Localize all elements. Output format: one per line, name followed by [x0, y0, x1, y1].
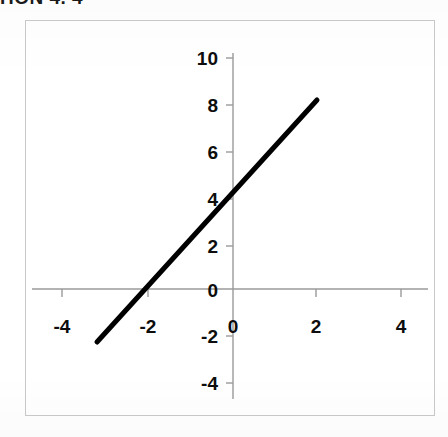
cropped-title-fragment: HON 4. 4	[0, 0, 160, 9]
x-tick-label-2: 2	[294, 317, 338, 336]
y-tick-label-10: 10	[174, 49, 218, 68]
x-tick-label-minus-2: -2	[126, 317, 170, 336]
x-axis-ticks	[62, 289, 401, 297]
x-tick-label-0: 0	[211, 317, 255, 336]
y-tick-label-8: 8	[174, 96, 218, 115]
chart-plot-frame: 10 8 6 4 2 0 -2 -4 -4 -2 0 2 4	[25, 20, 435, 416]
y-tick-label-0: 0	[174, 281, 218, 300]
line-chart-svg	[26, 21, 436, 417]
y-tick-label-minus-4: -4	[170, 374, 218, 393]
y-tick-label-2: 2	[174, 237, 218, 256]
x-tick-label-4: 4	[379, 317, 423, 336]
y-tick-label-4: 4	[174, 190, 218, 209]
y-tick-label-6: 6	[174, 143, 218, 162]
x-tick-label-minus-4: -4	[40, 317, 84, 336]
data-series-line	[97, 100, 317, 342]
